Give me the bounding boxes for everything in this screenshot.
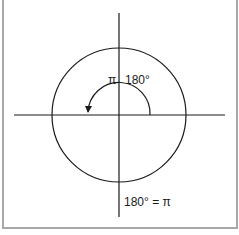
angle-diagram: π 180° 180° = π [0, 0, 239, 235]
equation-label: 180° = π [124, 195, 171, 209]
arrowhead-icon [85, 106, 92, 113]
pi-label: π [108, 73, 116, 87]
angle-label: 180° [125, 73, 150, 87]
